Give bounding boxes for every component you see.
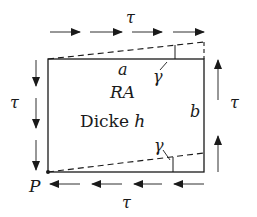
tau-bottom-label: τ — [122, 193, 132, 212]
gamma-top-label: γ — [153, 67, 163, 86]
deformed-bottom-edge — [48, 153, 204, 172]
thickness-label: Dicke h — [80, 111, 145, 131]
deformed-top-edge — [48, 42, 204, 59]
tau-left-label: τ — [10, 93, 20, 112]
gamma-bottom-pointer — [163, 150, 170, 160]
gamma-bottom-label: γ — [154, 136, 164, 155]
element-label: RA — [109, 82, 135, 102]
tau-right-label: τ — [230, 93, 240, 112]
point-p-dot — [46, 170, 50, 174]
point-p-label: P — [28, 176, 41, 196]
tau-top-label: τ — [126, 8, 136, 27]
shear-diagram: τ τ τ τ a b RA Dicke h γ γ P — [0, 0, 257, 217]
side-b-label: b — [190, 102, 200, 121]
side-a-label: a — [118, 60, 128, 79]
